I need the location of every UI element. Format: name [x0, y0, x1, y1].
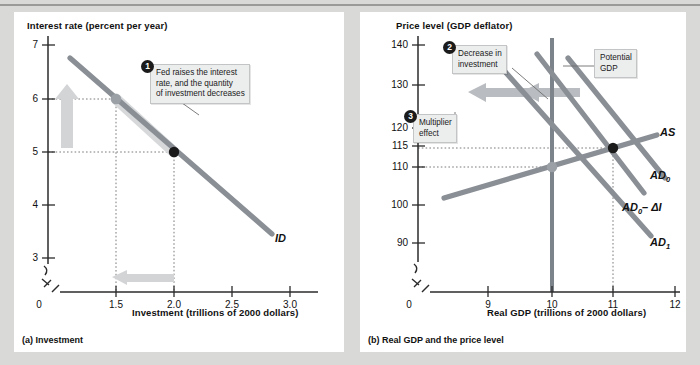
panel-a-x-axis-title: Investment (trillions of 2000 dollars): [132, 307, 298, 318]
figure-stage: Interest rate (percent per year) Investm…: [0, 0, 700, 365]
panel-a-x-tick-2-5: 2.5: [218, 299, 246, 310]
panel-b-x-tick-10: 10: [540, 299, 564, 310]
panel-b-y-axis-title: Price level (GDP deflator): [396, 20, 512, 31]
ad0-label-sub: 0: [666, 175, 670, 184]
panel-a-axis-break: [42, 266, 59, 292]
panel-b-y-tick-115: 115: [378, 140, 408, 151]
panel-b-chart: [412, 36, 680, 297]
potential-gdp-line-1: Potential: [600, 53, 632, 64]
ad1-label-base: AD: [650, 236, 666, 248]
callout-3-badge: 3: [404, 110, 417, 123]
potential-gdp-line-2: GDP: [600, 64, 632, 75]
callout-1-line-3: of investment decreases: [156, 89, 245, 100]
panel-b-x-tick-9: 9: [476, 299, 500, 310]
potential-gdp-callout: Potential GDP: [594, 49, 637, 78]
panel-a-y-tick-6: 6: [16, 93, 38, 104]
panel-b-x-tick-0: 0: [398, 299, 420, 310]
investment-decrease-arrow: [112, 270, 174, 285]
ad-delta-rest: – ΔI: [642, 201, 662, 213]
panel-a-y-tick-5: 5: [16, 146, 38, 157]
panel-a-y-tick-3: 3: [16, 252, 38, 263]
callout-2-badge: 2: [443, 41, 456, 54]
investment-demand-label: ID: [275, 232, 286, 244]
ad-delta-base: AD: [622, 201, 638, 213]
callout-3-line-2: effect: [419, 129, 452, 140]
callout-2-line-1: Decrease in: [458, 49, 502, 60]
panel-b-y-tick-100: 100: [378, 199, 408, 210]
panel-b-x-tick-12: 12: [663, 299, 687, 310]
callout-1-badge: 1: [141, 60, 154, 73]
panel-a-x-tick-3-0: 3.0: [276, 299, 304, 310]
panel-a-new-point: [169, 147, 179, 157]
ad0-label: AD0: [650, 169, 670, 184]
ad1-label: AD1: [650, 236, 670, 251]
panel-b-initial-point: [608, 143, 618, 153]
callout-1-line-2: rate, and the quantity: [156, 79, 245, 90]
panel-b-axis-break: [412, 264, 429, 292]
callout-3-line-1: Multiplier: [419, 118, 452, 129]
interest-rate-up-arrow: [55, 84, 79, 148]
panel-b-y-tick-110: 110: [378, 161, 408, 172]
panel-a-x-tick-1-5: 1.5: [102, 299, 130, 310]
ad0-minus-delta-i-label: AD0– ΔI: [622, 201, 662, 216]
panel-a-y-tick-4: 4: [16, 199, 38, 210]
callout-1-line-1: Fed raises the interest: [156, 68, 245, 79]
callout-1: Fed raises the interest rate, and the qu…: [150, 64, 250, 104]
panel-b-y-tick-140: 140: [378, 39, 408, 50]
panel-b-new-point: [547, 162, 557, 172]
callout-2: Decrease in investment: [452, 45, 507, 74]
panel-a-y-tick-7: 7: [16, 39, 38, 50]
panel-b-caption: (b) Real GDP and the price level: [368, 335, 504, 345]
ad1-label-sub: 1: [666, 242, 670, 251]
ad0-label-base: AD: [650, 169, 666, 181]
callout-3: Multiplier effect: [413, 114, 457, 143]
panel-b-y-tick-130: 130: [378, 79, 408, 90]
as-label: AS: [660, 126, 675, 138]
panel-a-y-axis-title: Interest rate (percent per year): [27, 20, 167, 31]
panel-a-x-tick-2-0: 2.0: [160, 299, 188, 310]
panel-a-initial-point: [111, 94, 121, 104]
panel-a-caption: (a) Investment: [22, 335, 83, 345]
panel-b-y-tick-120: 120: [378, 122, 408, 133]
panel-b-guides: [418, 148, 613, 292]
panel-b-x-tick-11: 11: [601, 299, 625, 310]
callout-2-line-2: investment: [458, 60, 502, 71]
panel-b-y-tick-90: 90: [378, 237, 408, 248]
panel-a-x-tick-0: 0: [28, 299, 50, 310]
